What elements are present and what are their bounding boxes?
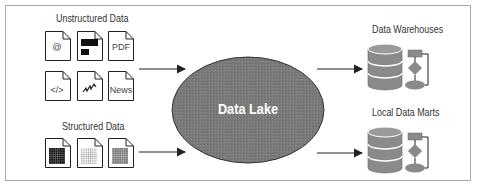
doc-image-icon bbox=[78, 32, 103, 61]
data-lake-label: Data Lake bbox=[206, 100, 291, 117]
doc-light-grid-icon bbox=[78, 139, 103, 168]
data-warehouses-title: Data Warehouses bbox=[372, 23, 443, 35]
svg-text:PDF: PDF bbox=[112, 42, 131, 52]
doc-signal-icon bbox=[78, 72, 103, 101]
doc-email-icon: @ bbox=[46, 32, 71, 61]
doc-pdf-icon: PDF bbox=[109, 32, 134, 61]
svg-text:</>: </> bbox=[50, 85, 63, 95]
svg-text:News: News bbox=[110, 85, 133, 95]
warehouse-database-flow-icon bbox=[368, 44, 428, 90]
svg-text:@: @ bbox=[52, 42, 61, 52]
structured-data-title: Structured Data bbox=[62, 120, 125, 132]
doc-dark-grid-icon bbox=[46, 139, 71, 168]
unstructured-data-title: Unstructured Data bbox=[56, 12, 128, 24]
doc-gray-grid-icon bbox=[109, 139, 134, 168]
local-data-marts-title: Local Data Marts bbox=[372, 106, 439, 118]
doc-news-icon: News bbox=[109, 72, 134, 101]
doc-code-icon: </> bbox=[46, 72, 71, 101]
datamart-database-flow-icon bbox=[368, 127, 428, 173]
